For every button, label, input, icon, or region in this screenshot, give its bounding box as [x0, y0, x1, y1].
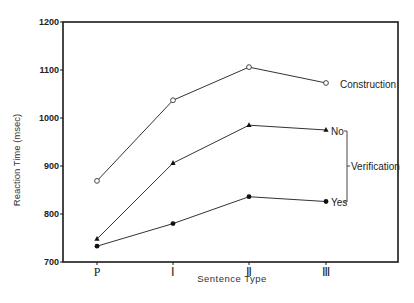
x-tick-label: Ⅲ	[322, 265, 330, 279]
filled-circle-marker	[247, 194, 252, 199]
x-tick-label: Ⅰ	[171, 265, 175, 279]
x-tick-label: P	[94, 265, 101, 279]
y-tick-label: 800	[44, 209, 59, 219]
y-tick-label: 700	[44, 257, 59, 267]
y-axis-ticks: 700800900100011001200	[39, 17, 63, 267]
y-tick-label: 1000	[39, 113, 59, 123]
x-axis-title: Sentence Type	[197, 273, 267, 284]
y-tick-label: 1200	[39, 17, 59, 27]
open-circle-marker	[324, 81, 329, 86]
series-label-construction: Construction	[340, 79, 396, 90]
plot-frame	[63, 22, 398, 262]
y-axis-title: Reaction Time (msec)	[11, 114, 22, 206]
open-circle-marker	[95, 178, 100, 183]
y-tick-label: 900	[44, 161, 59, 171]
series-label-yes: Yes	[331, 197, 347, 208]
verification-bracket	[344, 131, 350, 202]
filled-circle-marker	[95, 244, 100, 249]
series-label-no: No	[331, 126, 344, 137]
open-circle-marker	[171, 98, 176, 103]
bracket-label-verification: Verification	[351, 161, 400, 172]
filled-circle-marker	[171, 221, 176, 226]
series-yes	[95, 194, 329, 248]
series-no	[94, 122, 328, 241]
filled-triangle-marker	[246, 122, 251, 127]
line-chart: 700800900100011001200 PⅠⅡⅢ Reaction Time…	[0, 0, 414, 303]
series-construction	[95, 65, 329, 184]
y-tick-label: 1100	[39, 65, 59, 75]
filled-circle-marker	[324, 199, 329, 204]
data-series	[94, 65, 328, 249]
open-circle-marker	[247, 65, 252, 70]
